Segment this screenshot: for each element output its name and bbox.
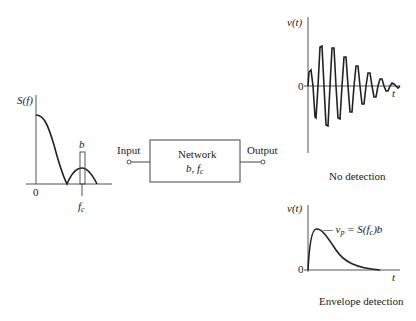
nodet-y-label: v(t) — [287, 17, 302, 28]
peak-annotation: — vp = S(fc)b — [323, 224, 382, 237]
spectrum-plot — [26, 95, 112, 196]
nodet-origin-label: 0 — [298, 81, 304, 92]
output-terminal — [261, 160, 265, 164]
peak-annot-mid: = S(f — [344, 223, 369, 235]
center-freq-subscript: c — [81, 205, 85, 214]
env-y-label: v(t) — [287, 203, 302, 214]
env-origin-label: 0 — [298, 264, 304, 275]
env-caption: Envelope detection — [319, 296, 404, 307]
network-params-text: b, f — [186, 162, 200, 174]
no-detection-plot — [304, 17, 400, 153]
network-title: Network — [178, 149, 217, 160]
spectrum-y-label: S(f) — [17, 95, 33, 106]
nodet-caption: No detection — [329, 171, 386, 182]
center-freq-label: fc — [78, 201, 85, 214]
network-params: b, fc — [186, 163, 204, 176]
nodet-x-label: t — [392, 88, 395, 99]
output-label: Output — [247, 145, 278, 156]
env-x-label: t — [392, 272, 395, 283]
peak-annot-prefix: — v — [323, 223, 340, 235]
bandwidth-label: b — [79, 139, 85, 150]
spectrum-curve — [36, 115, 97, 184]
input-label: Input — [117, 145, 140, 156]
spectrum-origin-label: 0 — [33, 187, 39, 198]
envelope-plot — [304, 205, 400, 272]
network-params-subscript: c — [200, 167, 204, 176]
input-terminal — [127, 160, 131, 164]
peak-annot-suffix: )b — [373, 223, 382, 235]
diagram-canvas — [0, 0, 416, 321]
